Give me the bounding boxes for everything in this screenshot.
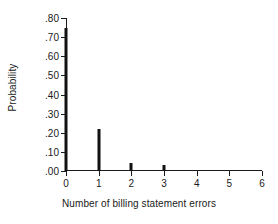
x-tick-label: 2 bbox=[129, 178, 135, 189]
x-tick bbox=[164, 171, 165, 176]
probability-chart: Probability .00.10.20.30.40.50.60.70.80 … bbox=[0, 0, 278, 224]
y-tick-label: .30 bbox=[45, 108, 59, 119]
y-tick-label: .10 bbox=[45, 146, 59, 157]
x-tick bbox=[66, 171, 67, 176]
y-tick-label: .50 bbox=[45, 70, 59, 81]
plot-area: .00.10.20.30.40.50.60.70.80 0123456 bbox=[66, 18, 262, 171]
x-tick bbox=[197, 171, 198, 176]
y-axis-title-text: Probability bbox=[8, 64, 19, 112]
x-tick bbox=[262, 171, 263, 176]
y-tick-label: .80 bbox=[45, 13, 59, 24]
x-tick-label: 6 bbox=[259, 178, 265, 189]
x-tick bbox=[99, 171, 100, 176]
data-bar bbox=[97, 129, 100, 171]
x-tick-label: 4 bbox=[194, 178, 200, 189]
y-tick-label: .20 bbox=[45, 127, 59, 138]
y-tick-label: .60 bbox=[45, 51, 59, 62]
x-tick-label: 5 bbox=[227, 178, 233, 189]
x-tick bbox=[131, 171, 132, 176]
x-axis-title: Number of billing statement errors bbox=[0, 198, 278, 209]
x-tick-label: 3 bbox=[161, 178, 167, 189]
y-tick bbox=[61, 18, 66, 19]
y-tick-label: .00 bbox=[45, 166, 59, 177]
y-tick-label: .40 bbox=[45, 89, 59, 100]
x-tick-label: 0 bbox=[63, 178, 69, 189]
data-bar bbox=[65, 28, 68, 171]
x-tick-label: 1 bbox=[96, 178, 102, 189]
x-tick bbox=[229, 171, 230, 176]
y-tick-label: .70 bbox=[45, 32, 59, 43]
y-axis-title: Probability bbox=[2, 0, 24, 175]
data-bar bbox=[163, 165, 166, 171]
data-bar bbox=[130, 163, 133, 171]
